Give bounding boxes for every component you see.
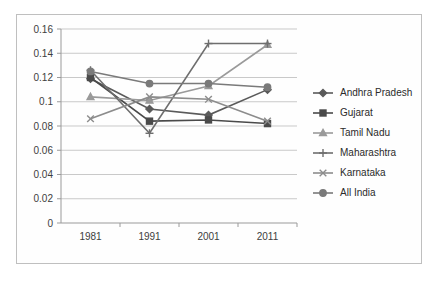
- series-line: [91, 71, 268, 87]
- y-axis-tick-label: 0.14: [34, 48, 54, 59]
- legend-item-karnataka[interactable]: Karnataka: [313, 167, 386, 178]
- legend-marker-icon: [319, 89, 326, 96]
- legend-item-andhra-pradesh[interactable]: Andhra Pradesh: [313, 87, 412, 98]
- y-axis-tick-label: 0.16: [34, 24, 54, 35]
- legend-label: Tamil Nadu: [340, 127, 390, 138]
- y-axis-tick-label: 0.04: [34, 169, 54, 180]
- data-point-marker: [87, 68, 93, 74]
- y-axis-tick-label: 0: [47, 218, 53, 229]
- legend-marker-icon: [320, 129, 327, 135]
- data-point-marker: [205, 80, 211, 86]
- x-axis-tick-label: 2011: [257, 231, 279, 242]
- line-chart: 00.020.040.060.080.10.120.140.1619811991…: [17, 15, 421, 263]
- x-axis-tick-label: 1981: [79, 231, 102, 242]
- legend-marker-icon: [320, 190, 326, 196]
- legend-label: Gujarat: [340, 107, 373, 118]
- legend-label: Karnataka: [340, 167, 386, 178]
- data-point-marker: [146, 105, 153, 112]
- legend-label: All India: [340, 187, 376, 198]
- data-point-marker: [147, 118, 153, 124]
- legend-label: Maharashtra: [340, 147, 397, 158]
- data-point-marker: [88, 75, 94, 81]
- data-point-marker: [87, 93, 94, 99]
- data-point-marker: [264, 84, 270, 90]
- y-axis-tick-label: 0.06: [34, 145, 54, 156]
- legend-item-gujarat[interactable]: Gujarat: [313, 107, 373, 118]
- x-axis-tick-label: 1991: [138, 231, 161, 242]
- chart-frame: 00.020.040.060.080.10.120.140.1619811991…: [16, 14, 422, 264]
- y-axis-tick-label: 0.02: [34, 193, 54, 204]
- data-point-marker: [206, 117, 212, 123]
- y-axis-tick-label: 0.08: [34, 121, 54, 132]
- legend-label: Andhra Pradesh: [340, 87, 412, 98]
- legend-marker-icon: [320, 110, 326, 116]
- legend-item-tamil-nadu[interactable]: Tamil Nadu: [313, 127, 390, 138]
- series-tamil-nadu: [87, 41, 271, 103]
- data-point-marker: [146, 80, 152, 86]
- chart-plot-area: 00.020.040.060.080.10.120.140.1619811991…: [17, 15, 421, 263]
- y-axis-tick-label: 0.1: [39, 96, 53, 107]
- legend-item-all-india[interactable]: All India: [313, 187, 376, 198]
- y-axis-tick-label: 0.12: [34, 72, 54, 83]
- legend-item-maharashtra[interactable]: Maharashtra: [313, 147, 397, 158]
- x-axis-tick-label: 2001: [197, 231, 220, 242]
